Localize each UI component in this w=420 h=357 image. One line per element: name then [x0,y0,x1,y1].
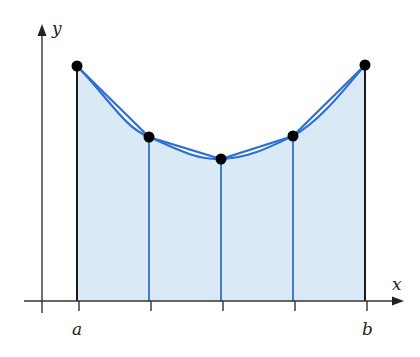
trapezoid-diagram: y x a b [0,0,420,357]
interval-start-label: a [72,319,82,339]
y-axis-arrow-icon [38,24,47,36]
point-4 [360,60,371,71]
point-3 [288,131,299,142]
point-1 [144,132,155,143]
x-axis-arrow-icon [392,297,404,306]
point-2 [216,154,227,165]
interval-end-label: b [362,319,373,339]
x-axis-label: x [392,274,402,294]
y-axis-label: y [51,18,62,38]
point-0 [72,61,83,72]
